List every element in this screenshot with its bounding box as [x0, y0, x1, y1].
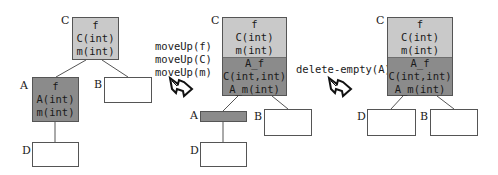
class-box-c: f C(int) m(int) A_f C(int,int) A_m(int) [222, 17, 287, 96]
class-label-a: A [20, 80, 28, 92]
member: A_f [411, 57, 430, 70]
member: C(int) [77, 32, 115, 45]
edge-c-a [223, 96, 238, 111]
class-label-b: B [420, 111, 428, 123]
class-box-c: f C(int) m(int) A_f C(int,int) A_m(int) [387, 17, 453, 96]
class-label-b: B [94, 79, 102, 91]
class-label-c: C [61, 15, 69, 27]
class-label-c: C [211, 15, 219, 27]
member: f [251, 18, 257, 31]
edge-c-b [437, 96, 454, 109]
edge-c-a [56, 60, 86, 77]
class-label-d: D [22, 145, 31, 157]
hollow-zigzag-arrow-icon [168, 74, 194, 100]
class-box-d [32, 142, 79, 167]
member: C(int) [236, 31, 274, 44]
member: A(int) [37, 93, 75, 106]
class-label-a: A [190, 110, 198, 122]
class-label-d: D [357, 111, 366, 123]
edge-c-b [272, 96, 288, 109]
class-box-a: f A(int) m(int) [32, 77, 79, 122]
member: f [92, 19, 98, 32]
command: moveUp(f) [155, 40, 212, 53]
class-label-b: B [254, 111, 262, 123]
class-box-c: f C(int) m(int) [72, 17, 119, 60]
class-label-c: C [376, 15, 384, 27]
member: A_f [245, 57, 264, 70]
class-box-b [430, 109, 478, 136]
class-box-d [367, 109, 416, 136]
member: A_m(int) [229, 83, 280, 96]
member: m(int) [236, 44, 274, 57]
member: f [417, 18, 423, 31]
member: C(int,int) [223, 70, 286, 83]
hollow-zigzag-arrow-icon [327, 74, 353, 100]
member: m(int) [37, 106, 75, 119]
class-box-b [104, 77, 152, 103]
member: A_m(int) [395, 83, 446, 96]
member: C(int,int) [388, 70, 451, 83]
edge-c-b [102, 60, 128, 77]
member: f [52, 80, 58, 93]
class-box-b [264, 109, 312, 136]
member: m(int) [77, 45, 115, 58]
original-members: f C(int) m(int) [223, 18, 286, 57]
edge-c-d [391, 96, 403, 109]
moved-up-members: A_f C(int,int) A_m(int) [388, 57, 452, 95]
member: m(int) [401, 44, 439, 57]
class-box-d [200, 142, 247, 167]
moved-up-members: A_f C(int,int) A_m(int) [223, 57, 286, 95]
class-box-a-empty [200, 111, 247, 122]
member: C(int) [401, 31, 439, 44]
class-label-d: D [190, 145, 199, 157]
original-members: f C(int) m(int) [388, 18, 452, 57]
command: moveUp(C) [155, 53, 212, 66]
